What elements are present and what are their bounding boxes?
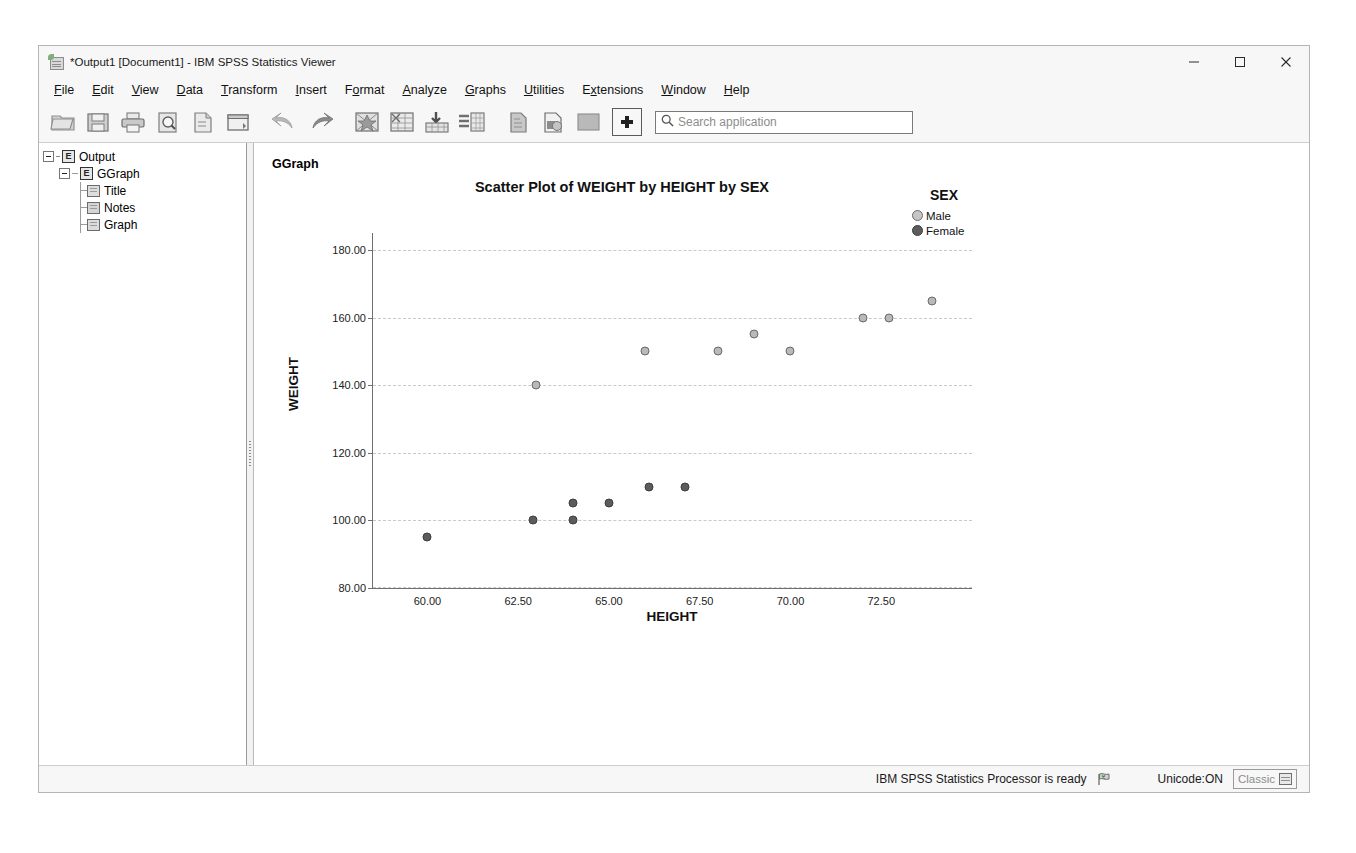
- data-point-female: [568, 499, 577, 508]
- y-tick-mark: [368, 250, 373, 251]
- search-input[interactable]: Search application: [655, 111, 913, 134]
- menu-insert[interactable]: Insert: [287, 80, 336, 100]
- y-tick-mark: [368, 318, 373, 319]
- data-point-male: [532, 381, 541, 390]
- menu-transform[interactable]: Transform: [212, 80, 287, 100]
- collapse-toggle-output[interactable]: [43, 151, 54, 162]
- minimize-button[interactable]: [1171, 46, 1217, 77]
- outline-label-notes: Notes: [104, 201, 135, 215]
- status-bar: IBM SPSS Statistics Processor is ready U…: [39, 765, 1309, 792]
- legend-entry-male: Male: [912, 208, 1062, 223]
- demote-icon[interactable]: [573, 107, 605, 137]
- legend-swatch-male-icon: [912, 210, 923, 221]
- outline-label-graph: Graph: [104, 218, 137, 232]
- ggraph-document-icon: E: [80, 167, 93, 180]
- menu-help[interactable]: Help: [715, 80, 759, 100]
- insert-table-icon[interactable]: [421, 107, 453, 137]
- spss-viewer-icon: [48, 54, 64, 70]
- legend-label-male: Male: [926, 210, 951, 222]
- y-tick-mark: [368, 520, 373, 521]
- y-tick-label: 100.00: [332, 514, 366, 526]
- y-gridline: [373, 453, 972, 454]
- y-tick-mark: [368, 453, 373, 454]
- menu-utilities[interactable]: Utilities: [515, 80, 573, 100]
- menu-graphs[interactable]: Graphs: [456, 80, 515, 100]
- collapse-toggle-ggraph[interactable]: [59, 168, 70, 179]
- menu-window[interactable]: Window: [652, 80, 714, 100]
- insert-text-icon[interactable]: [456, 107, 488, 137]
- show-hide-icon[interactable]: [503, 107, 535, 137]
- outline-node-ggraph[interactable]: E GGraph: [43, 165, 246, 182]
- y-gridline: [373, 587, 972, 588]
- y-tick-label: 160.00: [332, 312, 366, 324]
- x-tick-label: 72.50: [867, 595, 895, 607]
- menu-view[interactable]: View: [123, 80, 168, 100]
- y-tick-mark: [368, 588, 373, 589]
- outline-node-title[interactable]: Title: [43, 182, 246, 199]
- scatter-chart[interactable]: Scatter Plot of WEIGHT by HEIGHT by SEX …: [272, 179, 1072, 649]
- print-preview-icon[interactable]: [152, 107, 184, 137]
- y-gridline: [373, 520, 972, 521]
- y-tick-mark: [368, 385, 373, 386]
- y-tick-label: 140.00: [332, 379, 366, 391]
- pane-splitter[interactable]: [247, 143, 254, 765]
- output-document-icon: E: [62, 150, 75, 163]
- classic-grid-icon: [1279, 773, 1292, 785]
- outline-node-notes[interactable]: Notes: [43, 199, 246, 216]
- data-point-male: [641, 347, 650, 356]
- title-bar: *Output1 [Document1] - IBM SPSS Statisti…: [39, 46, 1309, 77]
- menu-extensions[interactable]: Extensions: [573, 80, 652, 100]
- outline-label-title: Title: [104, 184, 126, 198]
- classic-mode-label: Classic: [1238, 773, 1275, 785]
- data-point-female: [568, 516, 577, 525]
- chart-legend: SEX Male Female: [912, 187, 1062, 238]
- x-tick-label: 70.00: [777, 595, 805, 607]
- redo-icon[interactable]: [304, 107, 336, 137]
- y-gridline: [373, 385, 972, 386]
- y-tick-label: 80.00: [338, 582, 366, 594]
- data-point-male: [750, 330, 759, 339]
- menu-edit[interactable]: Edit: [83, 80, 123, 100]
- y-gridline: [373, 250, 972, 251]
- export-icon[interactable]: [187, 107, 219, 137]
- goto-case-icon[interactable]: [351, 107, 383, 137]
- outline-pane: E Output E GGraph Title Notes: [39, 143, 247, 765]
- menu-file[interactable]: File: [45, 80, 83, 100]
- promote-icon[interactable]: [538, 107, 570, 137]
- print-icon[interactable]: [117, 107, 149, 137]
- data-point-female: [644, 482, 653, 491]
- viewer-body: E Output E GGraph Title Notes: [39, 143, 1309, 765]
- maximize-button[interactable]: [1217, 46, 1263, 77]
- open-file-icon[interactable]: [47, 107, 79, 137]
- search-placeholder: Search application: [678, 115, 777, 129]
- legend-title: SEX: [930, 187, 1062, 203]
- save-icon[interactable]: [82, 107, 114, 137]
- window-controls: [1171, 46, 1309, 77]
- unicode-status: Unicode:ON: [1158, 772, 1223, 786]
- x-axis-title: HEIGHT: [372, 609, 972, 624]
- menu-data[interactable]: Data: [168, 80, 212, 100]
- content-pane: GGraph Scatter Plot of WEIGHT by HEIGHT …: [254, 143, 1309, 765]
- tool-bar: Search application: [39, 102, 1309, 143]
- outline-label-output: Output: [79, 150, 115, 164]
- data-point-male: [859, 313, 868, 322]
- tree-branch: [75, 216, 87, 233]
- menu-format[interactable]: Format: [336, 80, 394, 100]
- plot-area: 80.00100.00120.00140.00160.00180.0060.00…: [372, 233, 972, 589]
- undo-icon[interactable]: [269, 107, 301, 137]
- outline-node-output[interactable]: E Output: [43, 148, 246, 165]
- title-item-icon: [87, 185, 100, 197]
- y-axis-title: WEIGHT: [286, 357, 301, 411]
- data-point-male: [786, 347, 795, 356]
- close-button[interactable]: [1263, 46, 1309, 77]
- search-icon: [661, 113, 674, 131]
- add-icon[interactable]: [612, 108, 642, 136]
- status-message: IBM SPSS Statistics Processor is ready: [876, 772, 1087, 786]
- ggraph-heading: GGraph: [272, 157, 319, 171]
- dialog-recall-icon[interactable]: [222, 107, 254, 137]
- menu-analyze[interactable]: Analyze: [393, 80, 455, 100]
- classic-mode-button[interactable]: Classic: [1233, 769, 1297, 789]
- variables-icon[interactable]: [386, 107, 418, 137]
- y-tick-label: 120.00: [332, 447, 366, 459]
- outline-node-graph[interactable]: Graph: [43, 216, 246, 233]
